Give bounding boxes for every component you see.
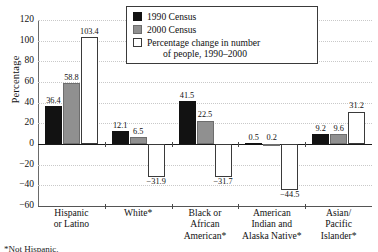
bar xyxy=(263,144,280,146)
y-tick-label: 80 xyxy=(25,57,35,67)
bar-value-label: −31.9 xyxy=(142,178,171,186)
bar-value-label: 31.2 xyxy=(342,102,371,110)
y-tick-label: −20 xyxy=(19,160,34,170)
category-label-line: American xyxy=(238,207,305,218)
bar-value-label: 103.4 xyxy=(75,28,104,36)
category-label-line: Alaska Native* xyxy=(238,230,305,241)
category-label-line: White* xyxy=(105,207,172,218)
legend-label-line2: of people, 1990–2000 xyxy=(147,48,260,59)
bar-value-label: −31.7 xyxy=(209,178,238,186)
bar xyxy=(179,101,196,144)
x-axis-group-tick xyxy=(238,142,239,147)
y-tick-label: −60 xyxy=(19,201,34,211)
bar xyxy=(245,143,262,145)
category-label-line: Indian and xyxy=(238,218,305,229)
y-tick-label: 0 xyxy=(29,139,34,149)
zero-line xyxy=(38,144,372,145)
bar xyxy=(330,134,347,144)
x-axis-category-label: Black orAfricanAmerican* xyxy=(172,207,239,241)
x-axis-group-tick xyxy=(305,142,306,147)
x-axis-category-label: White* xyxy=(105,207,172,218)
category-label-line: Hispanic xyxy=(38,207,105,218)
bar xyxy=(215,144,232,177)
bar xyxy=(63,83,80,144)
legend-label: 1990 Census xyxy=(147,11,196,22)
chart-legend: 1990 Census2000 CensusPercentage change … xyxy=(126,6,318,64)
bar xyxy=(148,144,165,177)
gridline xyxy=(38,185,372,186)
legend-label: Percentage change in numberof people, 19… xyxy=(147,37,260,59)
category-label-line: Black or xyxy=(172,207,239,218)
bar-value-label: −44.5 xyxy=(275,191,304,199)
bar xyxy=(130,137,147,144)
x-axis-category-label: AmericanIndian andAlaska Native* xyxy=(238,207,305,241)
legend-item: 1990 Census xyxy=(133,11,311,22)
legend-swatch-cchange xyxy=(133,38,142,47)
legend-label: 2000 Census xyxy=(147,24,196,35)
bar xyxy=(312,134,329,144)
bar xyxy=(45,106,62,144)
y-tick-label: 100 xyxy=(20,36,34,46)
category-label-line: or Latino xyxy=(38,218,105,229)
y-axis-title: Percentage xyxy=(10,35,21,125)
legend-swatch-c1990 xyxy=(133,12,142,21)
legend-item: Percentage change in numberof people, 19… xyxy=(133,37,311,59)
category-label-line: Islander* xyxy=(305,230,372,241)
y-tick-label: 20 xyxy=(25,119,35,129)
x-axis-group-tick xyxy=(105,142,106,147)
x-axis-category-label: Hispanicor Latino xyxy=(38,207,105,230)
x-axis-category-labels: Hispanicor LatinoWhite*Black orAfricanAm… xyxy=(38,207,372,252)
bar-value-label: 22.5 xyxy=(191,111,220,119)
bar-value-label: 0.2 xyxy=(257,134,286,142)
legend-swatch-c2000 xyxy=(133,25,142,34)
bar-chart: Percentage 120100806040200−20−40−6036.45… xyxy=(0,0,378,252)
category-label-line: American* xyxy=(172,230,239,241)
y-tick-label: 40 xyxy=(25,98,35,108)
chart-footnote: *Not Hispanic. xyxy=(4,244,59,252)
x-axis-group-tick xyxy=(172,142,173,147)
y-tick-label: 120 xyxy=(20,15,34,25)
bar-value-label: 41.5 xyxy=(173,92,202,100)
y-tick-label: −40 xyxy=(19,181,34,191)
bar xyxy=(281,144,298,190)
category-label-line: Pacific xyxy=(305,218,372,229)
bar xyxy=(81,37,98,144)
category-label-line: African xyxy=(172,218,239,229)
bar xyxy=(197,121,214,144)
x-axis-category-label: Asian/PacificIslander* xyxy=(305,207,372,241)
bar xyxy=(348,112,365,144)
y-axis-line xyxy=(38,20,39,206)
legend-item: 2000 Census xyxy=(133,24,311,35)
gridline xyxy=(38,165,372,166)
category-label-line: Asian/ xyxy=(305,207,372,218)
bar-value-label: 6.5 xyxy=(124,128,153,136)
y-tick-label: 60 xyxy=(25,77,35,87)
